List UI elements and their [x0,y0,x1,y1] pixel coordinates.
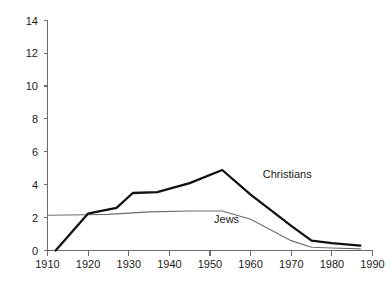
y-tick-label: 0 [32,245,38,257]
x-tick-label: 1960 [238,258,262,270]
line-chart: 0 2 4 6 8 10 12 14 1910 1920 1930 1940 [0,0,392,283]
x-tick-label: 1990 [360,258,384,270]
y-tick-label: 4 [32,179,38,191]
y-tick-label: 14 [26,15,38,27]
y-tick-label: 8 [32,113,38,125]
y-tick-label: 2 [32,212,38,224]
series-label-christians: Christians [263,168,312,180]
x-tick-label: 1980 [320,258,344,270]
x-axis-tick-labels: 1910 1920 1930 1940 1950 1960 1970 1980 … [35,258,384,270]
x-tick-label: 1940 [157,258,181,270]
chart-background [0,0,392,283]
y-tick-label: 12 [26,47,38,59]
x-tick-label: 1910 [35,258,59,270]
x-tick-label: 1930 [117,258,141,270]
x-tick-label: 1970 [279,258,303,270]
y-tick-label: 10 [26,80,38,92]
x-tick-label: 1950 [198,258,222,270]
chart-plot-area: 0 2 4 6 8 10 12 14 1910 1920 1930 1940 [0,0,392,283]
y-tick-label: 6 [32,146,38,158]
series-label-jews: Jews [214,213,240,225]
x-tick-label: 1920 [76,258,100,270]
